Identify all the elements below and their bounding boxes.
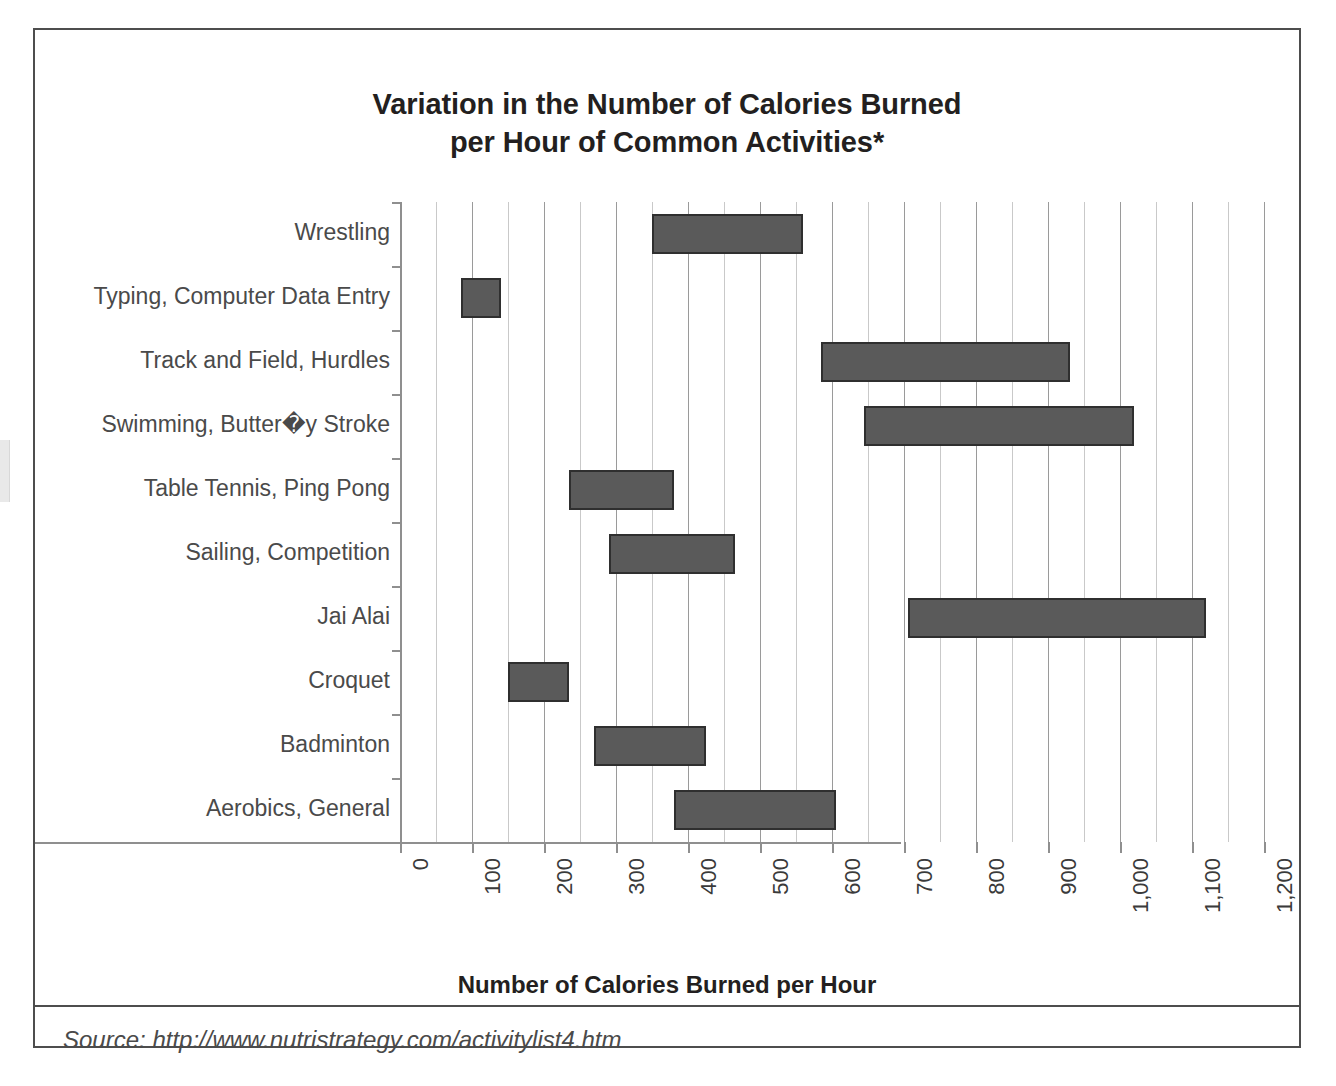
gridline-major (1048, 202, 1049, 842)
x-axis-tick-label: 100 (480, 858, 506, 895)
range-bar (461, 278, 501, 318)
y-axis-label: Table Tennis, Ping Pong (60, 475, 390, 502)
x-axis-tick (1192, 842, 1194, 853)
gridline-minor (796, 202, 797, 842)
gridline-major (976, 202, 977, 842)
gridline-major (1120, 202, 1121, 842)
range-bar (821, 342, 1069, 382)
x-axis-tick-label: 400 (696, 858, 722, 895)
gridline-minor (1084, 202, 1085, 842)
y-axis-tick (392, 202, 401, 204)
plot-gridlines (400, 202, 1264, 842)
x-axis-tick (1264, 842, 1266, 853)
x-axis-tick-label: 200 (552, 858, 578, 895)
y-axis-label: Swimming, Butter�y Stroke (60, 411, 390, 438)
range-bar (594, 726, 706, 766)
y-axis-label: Sailing, Competition (60, 539, 390, 566)
x-axis-tick (616, 842, 618, 853)
x-axis-tick-label: 500 (768, 858, 794, 895)
x-axis-tick-label: 1,000 (1128, 858, 1154, 913)
range-bar (674, 790, 836, 830)
gridline-major (832, 202, 833, 842)
gridline-major (760, 202, 761, 842)
x-axis-tick (400, 842, 402, 853)
gridline-minor (1228, 202, 1229, 842)
y-axis-label: Wrestling (60, 219, 390, 246)
page-edge-artifact (0, 440, 10, 502)
range-bar (508, 662, 569, 702)
y-axis-label: Typing, Computer Data Entry (60, 283, 390, 310)
y-axis-label: Badminton (60, 731, 390, 758)
chart-title-line-2: per Hour of Common Activities* (35, 123, 1299, 161)
y-axis-label: Jai Alai (60, 603, 390, 630)
gridline-minor (508, 202, 509, 842)
range-bar (652, 214, 803, 254)
gridline-minor (436, 202, 437, 842)
source-divider (35, 1005, 1299, 1007)
chart-title-line-1: Variation in the Number of Calories Burn… (35, 85, 1299, 123)
x-axis-tick (1048, 842, 1050, 853)
x-axis-tick-label: 1,100 (1200, 858, 1226, 913)
x-axis-tick-label: 600 (840, 858, 866, 895)
x-axis-tick-labels: 01002003004005006007008009001,0001,1001,… (400, 858, 1280, 958)
y-axis-label: Aerobics, General (60, 795, 390, 822)
y-axis-tick (392, 394, 401, 396)
gridline-minor (868, 202, 869, 842)
x-axis-tick-label: 800 (984, 858, 1010, 895)
x-axis-tick-label: 900 (1056, 858, 1082, 895)
range-bar (864, 406, 1134, 446)
figure-frame: Variation in the Number of Calories Burn… (33, 28, 1301, 1048)
y-axis-tick (392, 330, 401, 332)
x-axis-tick-label: 700 (912, 858, 938, 895)
y-axis-tick (392, 714, 401, 716)
y-axis-tick (392, 650, 401, 652)
range-bar (569, 470, 673, 510)
x-axis-tick (544, 842, 546, 853)
y-axis-label: Track and Field, Hurdles (60, 347, 390, 374)
source-note: Source: http://www.nutristrategy.com/act… (63, 1026, 621, 1054)
y-axis-tick (392, 586, 401, 588)
gridline-major (1192, 202, 1193, 842)
y-axis-labels: WrestlingTyping, Computer Data EntryTrac… (60, 202, 390, 842)
x-axis-tick-label: 0 (408, 858, 434, 870)
y-axis-tick (392, 458, 401, 460)
x-axis-tick (1120, 842, 1122, 853)
gridline-minor (1012, 202, 1013, 842)
x-axis-line (35, 842, 901, 844)
gridline-minor (580, 202, 581, 842)
x-axis-tick-label: 1,200 (1272, 858, 1298, 913)
x-axis-tick-label: 300 (624, 858, 650, 895)
y-axis-label: Croquet (60, 667, 390, 694)
chart-title: Variation in the Number of Calories Burn… (35, 85, 1299, 162)
gridline-major (904, 202, 905, 842)
y-axis-tick (392, 522, 401, 524)
x-axis-tick (472, 842, 474, 853)
x-axis-tick (832, 842, 834, 853)
x-axis-tick (904, 842, 906, 853)
x-axis-tick (760, 842, 762, 853)
gridline-minor (940, 202, 941, 842)
range-bar (609, 534, 735, 574)
y-axis-tick (392, 778, 401, 780)
x-axis-tick (976, 842, 978, 853)
gridline-minor (1156, 202, 1157, 842)
x-axis-title: Number of Calories Burned per Hour (35, 971, 1299, 999)
y-axis-tick (392, 266, 401, 268)
range-bar (908, 598, 1207, 638)
x-axis-tick (688, 842, 690, 853)
gridline-major (544, 202, 545, 842)
gridline-minor (724, 202, 725, 842)
gridline-major (1264, 202, 1265, 842)
